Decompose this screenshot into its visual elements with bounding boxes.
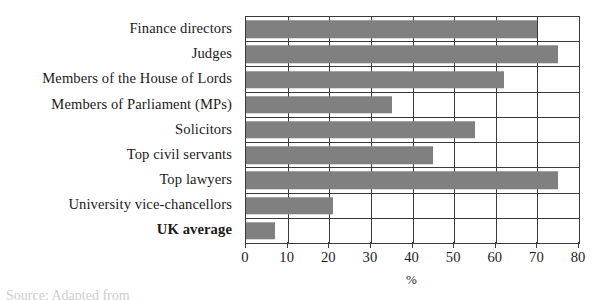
bar-row bbox=[246, 17, 579, 42]
x-axis-tick-label: 40 bbox=[404, 250, 419, 265]
plot-area bbox=[245, 16, 580, 244]
bar bbox=[246, 172, 558, 189]
bar-row bbox=[246, 168, 579, 193]
category-label: Members of the House of Lords bbox=[0, 66, 238, 91]
x-axis-tick-label: 30 bbox=[363, 250, 378, 265]
category-label: Members of Parliament (MPs) bbox=[0, 91, 238, 116]
bar bbox=[246, 197, 333, 214]
x-axis-tick bbox=[578, 242, 579, 248]
bar bbox=[246, 96, 392, 113]
bar-row bbox=[246, 219, 579, 243]
bar bbox=[246, 121, 475, 138]
x-axis-tick-label: 20 bbox=[321, 250, 336, 265]
x-axis-tick-label: 0 bbox=[241, 250, 248, 265]
x-axis-tick bbox=[536, 242, 537, 248]
bar-row bbox=[246, 143, 579, 168]
x-axis-tick bbox=[370, 242, 371, 248]
x-axis-tick bbox=[287, 242, 288, 248]
bar bbox=[246, 46, 558, 63]
x-axis-tick bbox=[328, 242, 329, 248]
x-axis-tick-label: 60 bbox=[487, 250, 502, 265]
bar-row bbox=[246, 67, 579, 92]
category-label: UK average bbox=[0, 217, 238, 242]
x-axis-tick bbox=[495, 242, 496, 248]
category-label: Top lawyers bbox=[0, 167, 238, 192]
x-axis-tick bbox=[245, 242, 246, 248]
category-label: Finance directors bbox=[0, 16, 238, 41]
category-label-column: Finance directorsJudgesMembers of the Ho… bbox=[0, 16, 238, 242]
x-axis-tick-label: 10 bbox=[279, 250, 294, 265]
category-label: Solicitors bbox=[0, 116, 238, 141]
x-axis-tick-label: 50 bbox=[446, 250, 461, 265]
bar bbox=[246, 20, 537, 37]
bar-rows bbox=[246, 17, 579, 243]
bar bbox=[246, 71, 504, 88]
x-axis-title: % bbox=[245, 272, 578, 288]
bar bbox=[246, 146, 433, 163]
x-axis-tick-label: 70 bbox=[529, 250, 544, 265]
category-label: Top civil servants bbox=[0, 142, 238, 167]
x-axis: 01020304050607080 bbox=[245, 242, 578, 243]
source-note: Source: Adapted from bbox=[6, 288, 130, 300]
bar-row bbox=[246, 194, 579, 219]
category-label: Judges bbox=[0, 41, 238, 66]
x-axis-tick bbox=[453, 242, 454, 248]
category-label: University vice-chancellors bbox=[0, 192, 238, 217]
bar-row bbox=[246, 93, 579, 118]
x-axis-tick-label: 80 bbox=[571, 250, 586, 265]
bar bbox=[246, 222, 275, 239]
x-axis-tick bbox=[412, 242, 413, 248]
bar-row bbox=[246, 118, 579, 143]
bar-row bbox=[246, 42, 579, 67]
